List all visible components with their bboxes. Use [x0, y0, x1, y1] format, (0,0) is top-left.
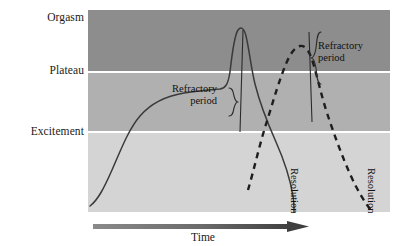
- annotation-refractory-period-left: Refractory period: [155, 83, 217, 107]
- y-axis-label-excitement: Excitement: [31, 125, 84, 137]
- time-axis-arrow: [93, 219, 309, 231]
- refractory-left-line2: period: [155, 95, 217, 107]
- y-axis-label-orgasm: Orgasm: [47, 11, 84, 23]
- refractory-bracket-left: [229, 88, 238, 116]
- solid-peak-dropline: [240, 30, 243, 132]
- y-axis-label-plateau: Plateau: [49, 64, 84, 76]
- refractory-right-line2: period: [318, 52, 363, 64]
- refractory-right-line1: Refractory: [318, 40, 363, 52]
- dashed-peak-dropline: [309, 32, 312, 122]
- refractory-left-line1: Refractory: [155, 83, 217, 95]
- solid-response-curve: [90, 28, 294, 212]
- x-axis-label-time: Time: [0, 231, 412, 243]
- annotation-refractory-period-right: Refractory period: [318, 40, 363, 64]
- time-label-text: Time: [191, 231, 215, 243]
- annotation-resolution-dashed: Resolution: [366, 168, 377, 214]
- annotation-resolution-solid: Resolution: [289, 168, 300, 214]
- sexual-response-cycle-figure: Orgasm Plateau Excitement Refractory per…: [0, 0, 412, 246]
